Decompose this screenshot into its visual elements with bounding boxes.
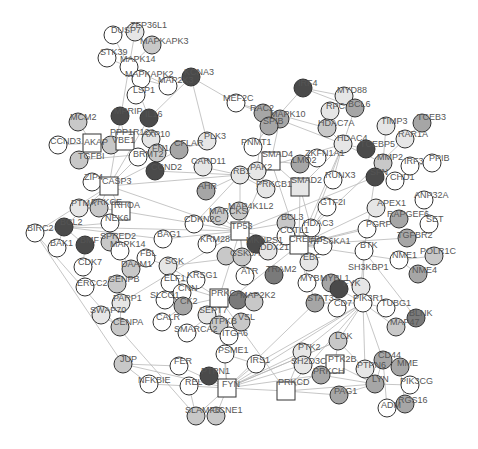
node-label: MEF2C (223, 93, 254, 103)
node-label: BCL2 (60, 217, 83, 227)
node-label: PPIB (429, 153, 450, 163)
node-label: CCND2 (151, 162, 182, 172)
network-diagram: DUSP7ZFP36L1MAPKAPK3STK39MAPK14MAPKAPK2M… (0, 0, 478, 449)
node-label: PTPN6 (357, 360, 386, 370)
node-label: PIK3CG (400, 376, 433, 386)
node-label: MME (397, 358, 418, 368)
node-label: MYB (300, 273, 320, 283)
node-label: CCND3 (50, 136, 81, 146)
node-label: PGRP (366, 219, 392, 229)
node-label: SEPT7 (199, 305, 228, 315)
node-label: PTK2 (298, 342, 321, 352)
node-label: ZKFN1A1 (305, 148, 345, 158)
node-label: IRF3 (404, 156, 424, 166)
node-label: LCK (335, 331, 353, 341)
node-label: BTK (360, 240, 378, 250)
node-label: AHR (198, 181, 218, 191)
node-label: BAK1 (50, 238, 73, 248)
node-label: TCEBP5 (360, 139, 395, 149)
node-label: CNN (178, 283, 198, 293)
node-label: KCNA3 (184, 67, 214, 77)
node-label: PAG1 (334, 386, 357, 396)
node-label: PRKCA (211, 288, 242, 298)
node-label: SH3KBP1 (348, 262, 389, 272)
node-label: VSL (238, 312, 255, 322)
node-label: AXP10 (142, 129, 170, 139)
node-label: TIMP3 (381, 116, 408, 126)
node-label: MPRIP (114, 106, 143, 116)
node-label: CARD11 (191, 156, 226, 166)
node-label: HDAC7A (318, 118, 355, 128)
node-label: MMP2 (377, 152, 403, 162)
node-label: FYK (343, 278, 361, 288)
node-label: NME4 (412, 265, 437, 275)
node-label: SMAD4 (262, 149, 293, 159)
node-label: AKAP (84, 137, 108, 147)
node-label: MAPK14 (120, 54, 156, 64)
node-label: LYN (372, 374, 389, 384)
node-label: IL16 (145, 109, 163, 119)
node-label: CHD1 (390, 172, 415, 182)
node-label: SPIB (263, 116, 284, 126)
node-label: TRAM2 (266, 264, 297, 274)
node-label: ZIP4 (84, 172, 103, 182)
node-label: TUBG1 (381, 298, 411, 308)
node-label: BCL3 (281, 212, 304, 222)
node-label: GSK3A (230, 248, 260, 258)
node-label: GENPB (108, 274, 140, 284)
node-label: BMF (80, 235, 100, 245)
node-label: CASP3 (102, 176, 132, 186)
node-label: DDX21 (260, 242, 289, 252)
node-label: PNMT1 (241, 137, 272, 147)
node-label: RUNX3 (325, 170, 356, 180)
node-label: DAAM1 (121, 259, 152, 269)
node-label: CFLAR (174, 138, 204, 148)
node-label: NEK6 (105, 213, 129, 223)
node-label: FBL (140, 248, 157, 258)
node-label: MAPKAPK3 (140, 36, 189, 46)
node-label: POLR1C (420, 246, 457, 256)
node-label: MYD88 (337, 85, 367, 95)
node-label: PRKCB1 (256, 179, 292, 189)
node-label: PRKCD (278, 377, 310, 387)
node-label: SWAP70 (90, 305, 126, 315)
node-label: RAPGEF6 (387, 209, 429, 219)
node-label: SFN (370, 167, 388, 177)
node-label: ELF1 (164, 273, 186, 283)
node-label: RAR1A (398, 129, 428, 139)
node-label: TGFBR2 (397, 230, 433, 240)
node-label: PAK2 (250, 162, 272, 172)
node-label: MCM2 (70, 112, 97, 122)
node-label: FER (174, 356, 193, 366)
node-label: RB1 (233, 166, 251, 176)
node-label: BCL6 (348, 99, 371, 109)
node-label: TP53 (231, 221, 253, 231)
node-label: BIRC2 (27, 223, 54, 233)
node-label: MAP4K1L2 (228, 201, 274, 211)
node-label: BRMT2 (133, 149, 164, 159)
node-label: GTF2I (320, 197, 346, 207)
node-label: SGK (165, 256, 184, 266)
node-label: CDK7 (78, 257, 102, 267)
node-label: APEX1 (377, 198, 406, 208)
node-label: CALR (156, 312, 181, 322)
node-label: SH2D3C (291, 356, 327, 366)
node-label: MAP47 (390, 317, 420, 327)
node-label: CK2 (180, 296, 198, 306)
node-label: NFKBIE (138, 375, 171, 385)
node-label: CENPA (113, 317, 143, 327)
node-label: RGS16 (398, 395, 428, 405)
node-label: SMARCA2 (174, 324, 218, 334)
node-label: TGFBI (78, 151, 105, 161)
node-label: STAT3 (307, 293, 334, 303)
node-label: REL (185, 377, 203, 387)
node-label: ERCC2 (77, 278, 108, 288)
node-label: PTPN1 (201, 366, 230, 376)
node-label: JUP (120, 354, 137, 364)
node-label: KRSG1 (187, 270, 218, 280)
node-label: ITGA6 (222, 328, 248, 338)
node-label: RPS6KA1 (310, 236, 351, 246)
node-label: LSP1 (133, 85, 155, 95)
node-label: KRM28 (200, 234, 230, 244)
edge (35, 233, 123, 364)
